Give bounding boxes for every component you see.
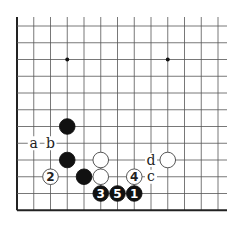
mark-d: d — [145, 152, 157, 168]
move-number: 4 — [130, 170, 138, 184]
black-stone-1: 1 — [126, 186, 142, 202]
white-stone-4: 4 — [126, 169, 142, 185]
move-number: 3 — [97, 187, 105, 201]
mark-a: a — [28, 135, 40, 151]
star-point — [65, 58, 69, 62]
black-stone — [76, 169, 92, 185]
white-stone-2: 2 — [43, 169, 59, 185]
black-stone — [59, 119, 75, 135]
white-stone — [93, 169, 109, 185]
star-point — [166, 58, 170, 62]
white-stone — [93, 152, 109, 168]
mark-c: c — [145, 168, 157, 184]
move-number: 2 — [46, 170, 54, 184]
black-stone-3: 3 — [93, 186, 109, 202]
black-stone-5: 5 — [110, 186, 126, 202]
mark-label: d — [147, 152, 156, 168]
mark-label: c — [147, 168, 155, 184]
black-stone — [59, 152, 75, 168]
move-number: 1 — [130, 187, 138, 201]
mark-label: a — [30, 135, 38, 151]
mark-label: b — [46, 135, 55, 151]
go-board-diagram: abcd 12345 — [0, 0, 239, 231]
mark-b: b — [45, 135, 57, 151]
move-number: 5 — [113, 187, 121, 201]
white-stone — [160, 152, 176, 168]
